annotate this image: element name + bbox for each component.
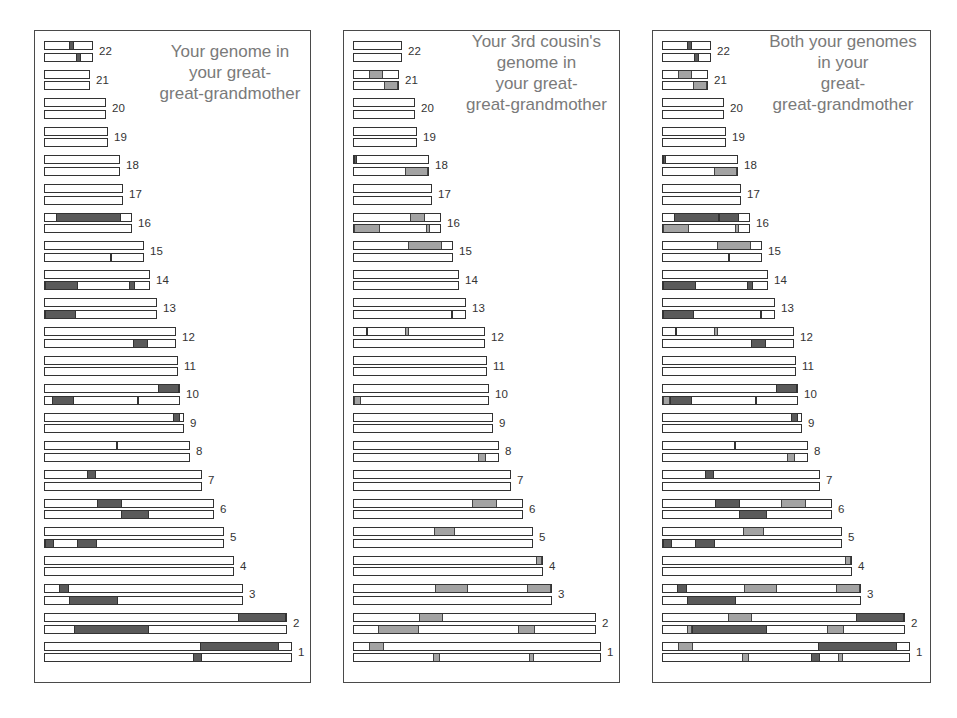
panel-cousin-genome: Your 3rd cousin's genome in your great- … (343, 30, 620, 683)
inherited-segment (751, 340, 765, 347)
chromosome-bar-top (662, 499, 832, 508)
inherited-segment (687, 597, 736, 604)
chromosome-bar-bottom (353, 625, 596, 634)
chromosome-bar-bottom (353, 653, 601, 662)
inherited-segment (677, 585, 687, 592)
cousin-segment (787, 454, 796, 461)
chromosome-bar-bottom (44, 367, 178, 376)
chromosome-pair-17: 17 (353, 184, 462, 206)
chromosome-label: 5 (539, 531, 545, 543)
chromosome-label: 4 (858, 560, 864, 572)
chromosome-label: 11 (802, 360, 814, 372)
chromosome-bar-top (44, 470, 202, 479)
cousin-segment (838, 654, 843, 661)
chromosome-pair-20: 20 (44, 98, 136, 120)
chromosome-label: 4 (240, 560, 246, 572)
chromosome-label: 9 (499, 417, 505, 429)
chromosome-bar-top (353, 584, 552, 593)
chromosome-bar-bottom (353, 224, 441, 233)
chromosome-bar-bottom (662, 510, 832, 519)
chromosome-pair-3: 3 (662, 584, 891, 606)
chromosome-pair-6: 6 (662, 499, 862, 521)
chromosome-bar-top (662, 327, 794, 336)
cousin-segment (663, 225, 689, 232)
chromosome-bar-bottom (44, 339, 176, 348)
cousin-segment (714, 328, 718, 335)
inherited-segment (56, 214, 121, 221)
inherited-segment (663, 282, 696, 289)
inherited-segment (728, 254, 730, 261)
chromosome-bar-top (44, 499, 214, 508)
chromosome-label: 16 (756, 217, 769, 229)
chromosome-pair-22: 22 (44, 41, 123, 63)
chromosome-bar-top (353, 155, 429, 164)
chromosome-bar-top (662, 41, 711, 50)
inherited-segment (451, 311, 453, 318)
chromosome-bar-bottom (353, 167, 429, 176)
chromosome-bar-top (662, 441, 808, 450)
cousin-segment (693, 82, 707, 89)
cousin-segment (378, 626, 419, 633)
chromosome-bar-top (44, 298, 157, 307)
chromosome-bar-bottom (353, 482, 511, 491)
chromosome-pair-5: 5 (44, 527, 254, 549)
inherited-segment (76, 54, 81, 61)
cousin-segment (434, 528, 455, 535)
chromosome-pair-1: 1 (662, 642, 940, 664)
chromosome-label: 5 (848, 531, 854, 543)
cousin-segment (717, 242, 751, 249)
cousin-segment (529, 654, 534, 661)
chromosome-pair-16: 16 (353, 213, 471, 235)
chromosome-label: 2 (293, 617, 299, 629)
chromosome-label: 8 (814, 445, 820, 457)
chromosome-label: 6 (529, 503, 535, 515)
chromosome-label: 12 (800, 331, 813, 343)
chromosome-bar-top (353, 499, 523, 508)
chromosome-bar-top (44, 213, 132, 222)
chromosome-bar-top (353, 41, 402, 50)
chromosome-bar-top (353, 441, 499, 450)
chromosome-pair-12: 12 (44, 327, 206, 349)
title-line: great-grandmother (449, 94, 624, 115)
chromosome-bar-bottom (662, 367, 796, 376)
chromosome-label: 10 (804, 388, 817, 400)
chromosome-pair-7: 7 (662, 470, 850, 492)
chromosome-pair-3: 3 (353, 584, 582, 606)
chromosome-pair-11: 11 (662, 356, 826, 378)
chromosome-label: 19 (423, 131, 436, 143)
cousin-segment (742, 654, 749, 661)
title-line: Both your genomes (753, 31, 933, 52)
chromosome-bar-top (662, 556, 852, 565)
chromosome-bar-bottom (44, 138, 108, 147)
chromosome-pair-14: 14 (44, 270, 180, 292)
chromosome-bar-top (353, 213, 441, 222)
inherited-segment (45, 311, 76, 318)
chromosome-label: 19 (114, 131, 127, 143)
chromosome-bar-top (44, 613, 287, 622)
chromosome-pair-20: 20 (353, 98, 445, 120)
chromosome-pair-21: 21 (662, 70, 738, 92)
panel-your-genome: Your genome in your great- great-grandmo… (34, 30, 311, 683)
chromosome-pair-8: 8 (353, 441, 529, 463)
cousin-segment (405, 328, 409, 335)
chromosome-bar-bottom (662, 281, 768, 290)
inherited-segment (97, 500, 122, 507)
chromosome-pair-19: 19 (353, 127, 447, 149)
cousin-segment (744, 585, 777, 592)
inherited-segment (687, 42, 692, 49)
chromosome-bar-bottom (353, 539, 533, 548)
inherited-segment (59, 585, 69, 592)
chromosome-bar-bottom (662, 196, 741, 205)
chromosome-bar-bottom (44, 596, 243, 605)
inherited-segment (692, 626, 767, 633)
chromosome-pair-4: 4 (44, 556, 264, 578)
chromosome-label: 21 (405, 74, 418, 86)
chromosome-pair-17: 17 (44, 184, 153, 206)
chromosome-bar-top (44, 327, 176, 336)
chromosome-bar-bottom (353, 339, 485, 348)
chromosome-bar-bottom (44, 196, 123, 205)
chromosome-label: 17 (747, 188, 760, 200)
chromosome-pair-10: 10 (353, 384, 519, 406)
inherited-segment (747, 282, 753, 289)
chromosome-bar-top (44, 384, 180, 393)
